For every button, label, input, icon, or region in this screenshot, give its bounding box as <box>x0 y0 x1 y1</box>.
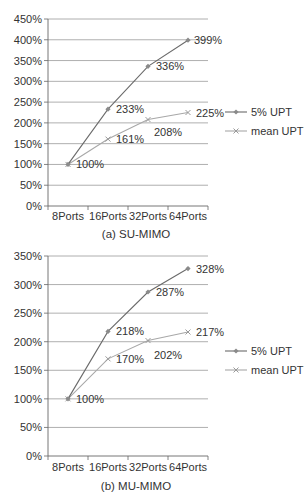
data-label: 170% <box>116 353 144 365</box>
chart-caption: (b) MU-MIMO <box>101 480 171 492</box>
data-label: 336% <box>156 60 184 72</box>
x-marker-icon <box>106 137 111 142</box>
data-label: 202% <box>154 349 182 361</box>
x-tick-label: 64Ports <box>169 210 207 222</box>
data-label: 100% <box>76 393 104 405</box>
y-tick-label: 450% <box>14 13 42 25</box>
data-label: 225% <box>196 107 224 119</box>
data-label: 233% <box>116 103 144 115</box>
y-tick-label: 150% <box>14 364 42 376</box>
x-tick-label: 32Ports <box>129 461 167 473</box>
legend-label: 5% UPT <box>251 345 292 357</box>
y-tick-label: 200% <box>14 336 42 348</box>
legend-label: mean UPT <box>251 364 304 376</box>
x-tick-label: 64Ports <box>169 461 207 473</box>
y-tick-label: 150% <box>14 138 42 150</box>
x-axis: 8Ports16Ports32Ports64Ports <box>48 206 208 222</box>
y-axis: 0%50%100%150%200%250%300%350%400%450% <box>14 13 208 212</box>
x-tick-label: 16Ports <box>89 461 127 473</box>
legend: 5% UPTmean UPT <box>225 106 304 137</box>
x-axis: 8Ports16Ports32Ports64Ports <box>48 456 208 473</box>
y-tick-label: 250% <box>14 96 42 108</box>
y-tick-label: 350% <box>14 250 42 262</box>
data-label: 100% <box>76 158 104 170</box>
y-tick-label: 200% <box>14 117 42 129</box>
y-tick-label: 250% <box>14 307 42 319</box>
chart-mu-mimo: 0%50%100%150%200%250%300%350%8Ports16Por… <box>14 250 304 492</box>
diamond-marker-icon <box>185 266 190 271</box>
y-tick-label: 100% <box>14 158 42 170</box>
legend-label: mean UPT <box>251 125 304 137</box>
data-label: 399% <box>194 34 222 46</box>
chart-su-mimo: 0%50%100%150%200%250%300%350%400%450%8Po… <box>14 13 304 240</box>
y-tick-label: 100% <box>14 393 42 405</box>
x-tick-label: 16Ports <box>89 210 127 222</box>
data-label: 208% <box>154 126 182 138</box>
y-tick-label: 0% <box>26 450 42 462</box>
legend: 5% UPTmean UPT <box>225 345 304 376</box>
y-tick-label: 350% <box>14 55 42 67</box>
data-label: 217% <box>196 326 224 338</box>
y-tick-label: 300% <box>14 75 42 87</box>
y-tick-label: 50% <box>20 179 42 191</box>
figure-canvas: 0%50%100%150%200%250%300%350%400%450%8Po… <box>0 0 308 504</box>
y-tick-label: 50% <box>20 421 42 433</box>
data-label: 287% <box>156 286 184 298</box>
x-tick-label: 8Ports <box>52 210 84 222</box>
y-tick-label: 300% <box>14 279 42 291</box>
data-label: 328% <box>196 263 224 275</box>
legend-label: 5% UPT <box>251 106 292 118</box>
legend-diamond-icon <box>233 348 238 353</box>
data-label: 161% <box>116 133 144 145</box>
chart-caption: (a) SU-MIMO <box>102 228 170 240</box>
x-tick-label: 32Ports <box>129 210 167 222</box>
y-tick-label: 0% <box>26 200 42 212</box>
x-tick-label: 8Ports <box>52 461 84 473</box>
y-tick-label: 400% <box>14 34 42 46</box>
data-label: 218% <box>116 325 144 337</box>
legend-diamond-icon <box>233 109 238 114</box>
x-marker-icon <box>106 356 111 361</box>
